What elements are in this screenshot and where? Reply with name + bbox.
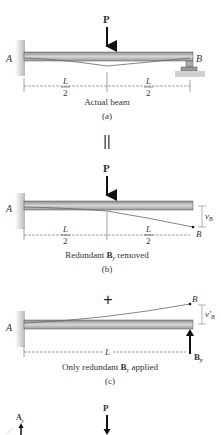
tag-b: (b)	[102, 264, 113, 274]
svg-text:P: P	[103, 403, 109, 413]
ground-hatch	[175, 71, 205, 77]
svg-text:A: A	[5, 322, 13, 333]
panel-b-redundant-removed: P A vB B L 2 L 2 Redundant By removed (b…	[5, 162, 213, 274]
panel-a-actual-beam: P A B L 2 L 2 Actual beam (a)	[5, 13, 205, 121]
deflection-label-vb-prime: v′B	[205, 309, 215, 320]
beam-b	[24, 201, 193, 210]
panel-d-partial: P Ay	[6, 403, 111, 435]
tag-c: (c)	[105, 376, 115, 386]
load-label-a: P	[103, 13, 110, 25]
reaction-label-ay: Ay	[16, 413, 25, 423]
fixed-wall-a	[15, 40, 25, 76]
plus-sign: +	[103, 291, 112, 308]
roller-support-icon	[186, 61, 193, 67]
caption-c: Only redundant By applied	[62, 362, 158, 373]
svg-text:B: B	[192, 294, 198, 304]
tag-a: (a)	[102, 111, 112, 121]
superposition-figure: P A B L 2 L 2 Actual beam (a) || P A vB …	[0, 0, 221, 435]
svg-text:2: 2	[146, 88, 151, 98]
svg-text:P: P	[103, 162, 110, 174]
fixed-wall-c	[15, 311, 25, 347]
deflection-label-vb: vB	[205, 211, 213, 222]
svg-text:2: 2	[63, 236, 68, 246]
force-label-by: By	[194, 352, 203, 363]
support-label-b: B	[196, 53, 202, 64]
fixed-wall-b	[15, 193, 25, 229]
svg-text:L: L	[62, 76, 68, 86]
svg-text:L: L	[145, 76, 151, 86]
support-label-a: A	[5, 53, 13, 64]
svg-text:B: B	[196, 229, 202, 239]
svg-text:L: L	[62, 224, 68, 234]
svg-text:A: A	[5, 203, 13, 214]
svg-text:2: 2	[63, 88, 68, 98]
equals-sign: ||	[103, 133, 110, 149]
svg-text:L: L	[145, 224, 151, 234]
svg-text:L: L	[104, 347, 110, 357]
caption-a: Actual beam	[84, 97, 130, 107]
caption-b: Redundant By removed	[65, 250, 149, 261]
svg-text:2: 2	[146, 236, 151, 246]
